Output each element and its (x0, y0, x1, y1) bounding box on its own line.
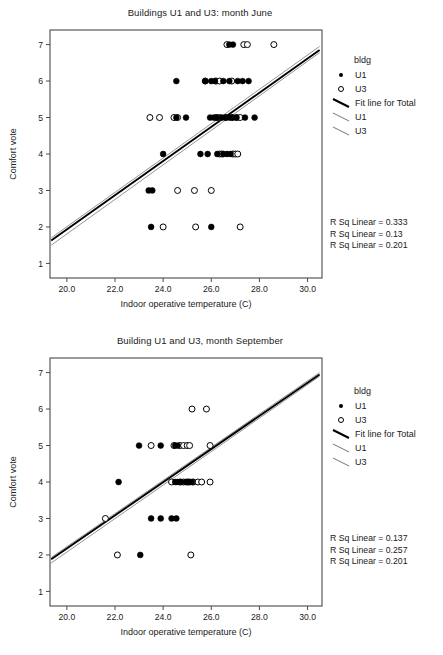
y-tick-label: 1 (38, 587, 43, 597)
thin-line-icon (332, 455, 352, 469)
data-point-u3 (160, 224, 166, 230)
chart-september: Building U1 and U3, month September 1234… (0, 328, 443, 655)
data-point-u1 (234, 115, 240, 121)
x-tick-label: 28.0 (251, 612, 268, 622)
x-axis-title: Indoor operative temperature (C) (120, 627, 251, 637)
open-circle-icon (332, 413, 352, 427)
thin-line-icon (332, 124, 352, 138)
legend-entry-fit-u3: U3 (332, 124, 416, 138)
data-point-u1 (240, 78, 246, 84)
legend-entry-u3-marker: U3 (332, 82, 416, 96)
data-point-u1 (137, 552, 143, 558)
chart-june: Buildings U1 and U3: month June 12345672… (0, 0, 443, 327)
rsq-line: R Sq Linear = 0.137 (330, 533, 408, 545)
data-point-u1 (136, 443, 142, 449)
data-point-u1 (252, 115, 258, 121)
data-point-u3 (191, 187, 197, 193)
data-point-u1 (205, 151, 211, 157)
rsq-line: R Sq Linear = 0.333 (330, 217, 408, 229)
x-tick-label: 30.0 (299, 284, 316, 294)
filled-circle-icon (332, 68, 352, 82)
data-point-u3 (208, 187, 214, 193)
rsq-annotations-june: R Sq Linear = 0.333 R Sq Linear = 0.13 R… (330, 217, 408, 252)
thick-line-icon (332, 427, 352, 441)
y-tick-label: 7 (38, 40, 43, 50)
data-point-u1 (214, 151, 220, 157)
data-point-u3 (157, 115, 163, 121)
scatter-plot-september: 123456720.022.024.026.028.030.0Indoor op… (0, 328, 443, 655)
legend-label: Fit line for Total (355, 98, 416, 108)
legend-label: U3 (355, 457, 367, 467)
y-tick-label: 5 (38, 441, 43, 451)
legend-label: Fit line for Total (355, 429, 416, 439)
data-point-u3 (175, 187, 181, 193)
rsq-line: R Sq Linear = 0.13 (330, 229, 408, 241)
data-point-u1 (173, 516, 179, 522)
data-point-u3 (187, 443, 193, 449)
legend-entry-u3-marker: U3 (332, 413, 416, 427)
legend-entry-fit-total: Fit line for Total (332, 427, 416, 441)
y-tick-label: 1 (38, 259, 43, 269)
data-point-u1 (173, 78, 179, 84)
y-axis-title: Comfort vote (8, 456, 18, 508)
data-point-u1 (173, 115, 179, 121)
data-point-u3 (207, 479, 213, 485)
data-point-u3 (235, 151, 241, 157)
legend-june: bldg U1 U3 Fit line for Total (332, 55, 416, 138)
data-point-u3 (102, 515, 108, 521)
y-tick-label: 4 (38, 477, 43, 487)
legend-label: U3 (355, 84, 367, 94)
legend-title-june: bldg (354, 55, 416, 65)
x-tick-label: 24.0 (155, 284, 172, 294)
data-point-u1 (149, 188, 155, 194)
x-tick-label: 26.0 (203, 284, 220, 294)
data-point-u3 (203, 406, 209, 412)
data-point-u1 (228, 151, 234, 157)
legend-label: U1 (355, 112, 367, 122)
legend-label: U1 (355, 443, 367, 453)
data-point-u1 (158, 516, 164, 522)
y-tick-label: 3 (38, 186, 43, 196)
data-point-u1 (175, 443, 181, 449)
data-point-u1 (116, 479, 122, 485)
data-point-u3 (114, 552, 120, 558)
y-tick-label: 3 (38, 514, 43, 524)
x-tick-label: 20.0 (58, 284, 75, 294)
legend-label: U1 (355, 70, 367, 80)
data-point-u3 (188, 552, 194, 558)
x-tick-label: 30.0 (299, 612, 316, 622)
legend-entry-fit-total: Fit line for Total (332, 96, 416, 110)
thin-line-icon (332, 441, 352, 455)
data-point-u1 (230, 42, 236, 48)
data-point-u1 (246, 78, 252, 84)
filled-circle-icon (332, 399, 352, 413)
data-point-u3 (193, 224, 199, 230)
data-point-u3 (271, 42, 277, 48)
data-point-u1 (189, 479, 195, 485)
data-point-u1 (220, 78, 226, 84)
data-point-u3 (237, 224, 243, 230)
legend-entry-fit-u1: U1 (332, 441, 416, 455)
legend-september: bldg U1 U3 Fit line for Total (332, 386, 416, 469)
data-point-u1 (158, 443, 164, 449)
thin-line-icon (332, 110, 352, 124)
legend-label: U3 (355, 126, 367, 136)
rsq-line: R Sq Linear = 0.201 (330, 240, 408, 252)
y-tick-label: 2 (38, 222, 43, 232)
legend-entry-u1-marker: U1 (332, 399, 416, 413)
y-tick-label: 2 (38, 550, 43, 560)
data-point-u1 (202, 78, 208, 84)
data-point-u3 (148, 443, 154, 449)
legend-entry-fit-u1: U1 (332, 110, 416, 124)
x-tick-label: 20.0 (58, 612, 75, 622)
legend-title-september: bldg (354, 386, 416, 396)
data-point-u3 (244, 42, 250, 48)
legend-label: U1 (355, 401, 367, 411)
legend-label: U3 (355, 415, 367, 425)
data-point-u3 (199, 479, 205, 485)
y-tick-label: 4 (38, 149, 43, 159)
open-circle-icon (332, 82, 352, 96)
x-tick-label: 26.0 (203, 612, 220, 622)
data-point-u3 (189, 406, 195, 412)
x-tick-label: 28.0 (251, 284, 268, 294)
